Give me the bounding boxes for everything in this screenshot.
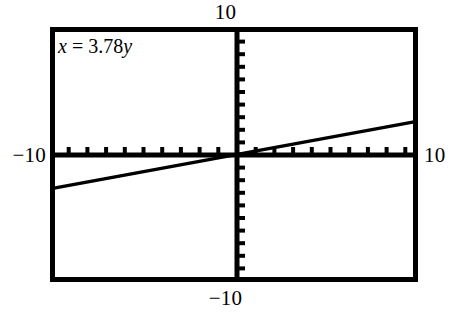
x-axis-min-label: −10 — [2, 145, 46, 166]
y-axis-min-label: −10 — [0, 288, 451, 309]
equation-annotation: x = 3.78y — [58, 36, 132, 56]
y-axis-max-label: 10 — [0, 2, 451, 23]
x-axis-max-label: 10 — [424, 145, 445, 166]
plot-canvas — [50, 27, 418, 282]
equation-equals-sign: = — [72, 35, 83, 57]
equation-rhs-variable: y — [123, 35, 132, 57]
equation-lhs-variable: x — [58, 35, 67, 57]
plot-viewport — [50, 27, 418, 282]
graph-figure: 10 −10 10 −10 — [0, 0, 451, 314]
equation-coefficient: 3.78 — [88, 35, 123, 57]
